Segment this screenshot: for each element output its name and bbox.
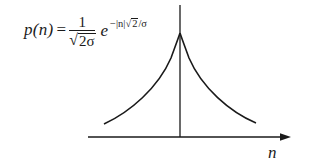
formula-equals: =	[57, 20, 67, 40]
formula-fraction: 1 √2σ	[69, 15, 95, 48]
x-axis-label: n	[268, 143, 277, 163]
exp-base: e	[101, 21, 109, 41]
pdf-curve-right	[180, 33, 256, 123]
exponent-suffix: /σ	[138, 18, 147, 29]
sqrt-icon: √	[69, 32, 78, 48]
exponent-sqrt-argument: 2	[131, 18, 138, 29]
fraction-numerator: 1	[77, 15, 89, 29]
x-axis-arrowhead-icon	[280, 133, 291, 141]
exponent-prefix: −|n|	[110, 18, 125, 29]
pdf-formula: p(n) = 1 √2σ e −|n|√2/σ	[24, 12, 147, 48]
sqrt-argument: 2σ	[78, 33, 96, 48]
fraction-denominator: √2σ	[69, 32, 95, 48]
formula-lhs: p(n)	[24, 20, 54, 40]
exponent: −|n|√2/σ	[110, 18, 147, 29]
